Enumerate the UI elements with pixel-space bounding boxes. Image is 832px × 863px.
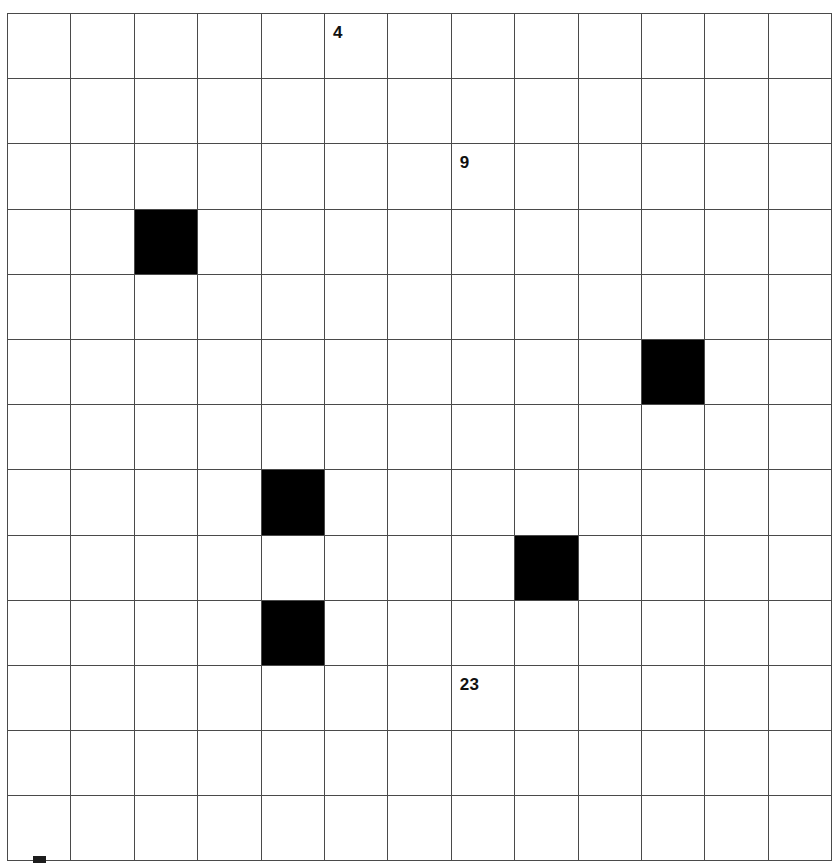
grid-cell[interactable] — [261, 535, 324, 600]
grid-cell[interactable] — [641, 470, 704, 535]
grid-cell[interactable] — [8, 405, 71, 470]
grid-cell[interactable] — [578, 600, 641, 665]
grid-cell[interactable] — [515, 339, 578, 404]
grid-cell[interactable] — [71, 600, 134, 665]
grid-cell-filled[interactable] — [515, 535, 578, 600]
grid-cell[interactable] — [71, 79, 134, 144]
grid-cell[interactable] — [451, 339, 514, 404]
grid-cell[interactable] — [8, 209, 71, 274]
grid-cell[interactable] — [515, 600, 578, 665]
grid-cell[interactable] — [705, 600, 768, 665]
grid-cell[interactable] — [578, 405, 641, 470]
grid-cell[interactable] — [705, 144, 768, 209]
grid-cell[interactable] — [261, 14, 324, 79]
grid-cell[interactable] — [768, 339, 831, 404]
grid-cell[interactable] — [705, 731, 768, 796]
grid-cell[interactable] — [261, 665, 324, 730]
grid-cell[interactable] — [388, 470, 451, 535]
grid-cell[interactable] — [578, 144, 641, 209]
grid-cell[interactable] — [705, 14, 768, 79]
grid-cell[interactable] — [71, 339, 134, 404]
grid-cell[interactable] — [71, 796, 134, 861]
grid-cell[interactable] — [578, 209, 641, 274]
grid-cell[interactable] — [578, 731, 641, 796]
grid-cell[interactable] — [134, 274, 197, 339]
grid-cell[interactable] — [8, 470, 71, 535]
grid-cell[interactable] — [451, 274, 514, 339]
grid-cell[interactable] — [768, 209, 831, 274]
grid-cell[interactable] — [578, 339, 641, 404]
grid-cell[interactable] — [71, 274, 134, 339]
grid-cell[interactable] — [134, 14, 197, 79]
grid-cell[interactable] — [578, 535, 641, 600]
grid-cell[interactable] — [198, 339, 261, 404]
grid-cell[interactable] — [388, 731, 451, 796]
grid-cell[interactable] — [261, 796, 324, 861]
grid-cell[interactable]: 4 — [324, 14, 387, 79]
grid-cell[interactable] — [768, 14, 831, 79]
grid-cell[interactable] — [8, 14, 71, 79]
grid-cell[interactable] — [451, 470, 514, 535]
grid-cell[interactable] — [134, 339, 197, 404]
grid-cell[interactable] — [261, 405, 324, 470]
grid-cell[interactable] — [388, 14, 451, 79]
grid-cell[interactable] — [388, 274, 451, 339]
grid-cell[interactable] — [198, 144, 261, 209]
grid-cell[interactable] — [71, 405, 134, 470]
grid-cell[interactable] — [768, 405, 831, 470]
grid-cell[interactable] — [8, 731, 71, 796]
grid-cell[interactable] — [8, 665, 71, 730]
grid-cell[interactable] — [261, 339, 324, 404]
grid-cell[interactable] — [578, 274, 641, 339]
grid-cell[interactable] — [8, 600, 71, 665]
grid-cell[interactable] — [451, 796, 514, 861]
grid-cell[interactable] — [8, 79, 71, 144]
grid-cell[interactable] — [768, 79, 831, 144]
grid-cell[interactable] — [198, 79, 261, 144]
grid-cell[interactable] — [451, 79, 514, 144]
grid-cell[interactable] — [388, 144, 451, 209]
grid-cell[interactable] — [388, 405, 451, 470]
grid-cell[interactable] — [324, 79, 387, 144]
grid-cell[interactable] — [705, 339, 768, 404]
grid-cell[interactable] — [451, 209, 514, 274]
grid-cell[interactable] — [578, 470, 641, 535]
grid-cell[interactable] — [71, 731, 134, 796]
grid-cell[interactable] — [705, 535, 768, 600]
grid-cell[interactable] — [324, 665, 387, 730]
grid-cell[interactable] — [515, 209, 578, 274]
grid-cell[interactable] — [578, 665, 641, 730]
grid-cell[interactable] — [515, 14, 578, 79]
grid-cell[interactable] — [324, 209, 387, 274]
grid-cell[interactable] — [324, 796, 387, 861]
grid-cell[interactable] — [324, 405, 387, 470]
grid-cell[interactable] — [134, 796, 197, 861]
grid-cell[interactable] — [71, 209, 134, 274]
grid-cell[interactable] — [134, 144, 197, 209]
grid-cell-filled[interactable] — [261, 600, 324, 665]
grid-cell[interactable] — [324, 144, 387, 209]
grid-cell[interactable] — [388, 79, 451, 144]
grid-cell[interactable] — [198, 665, 261, 730]
grid-cell[interactable] — [705, 470, 768, 535]
grid-cell[interactable] — [515, 470, 578, 535]
grid-cell[interactable] — [71, 665, 134, 730]
grid-cell[interactable] — [388, 665, 451, 730]
grid-cell[interactable] — [71, 14, 134, 79]
grid-cell[interactable] — [134, 470, 197, 535]
grid-cell[interactable] — [198, 274, 261, 339]
grid-cell[interactable]: 23 — [451, 665, 514, 730]
grid-cell[interactable] — [578, 14, 641, 79]
grid-cell[interactable] — [261, 79, 324, 144]
grid-cell[interactable] — [515, 144, 578, 209]
grid-cell[interactable] — [324, 600, 387, 665]
grid-cell[interactable] — [768, 731, 831, 796]
grid-cell[interactable] — [451, 731, 514, 796]
grid-cell[interactable] — [451, 535, 514, 600]
grid-cell[interactable] — [198, 535, 261, 600]
grid-cell[interactable] — [768, 665, 831, 730]
grid-cell[interactable] — [324, 470, 387, 535]
grid-cell[interactable] — [261, 274, 324, 339]
grid-cell[interactable] — [451, 14, 514, 79]
grid-cell[interactable] — [641, 144, 704, 209]
